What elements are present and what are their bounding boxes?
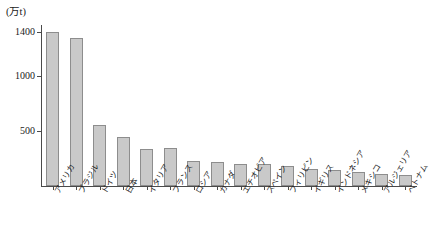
y-axis-tick-label: 1000 <box>15 71 35 81</box>
y-axis-unit-label: (万t) <box>6 3 26 18</box>
bar <box>46 32 59 186</box>
y-axis-tick-label: 500 <box>20 126 35 136</box>
y-axis-tick-mark <box>37 76 42 77</box>
y-axis-tick-label: 1400 <box>15 27 35 37</box>
y-axis-tick-mark <box>37 32 42 33</box>
bar <box>140 149 153 186</box>
y-axis-tick-mark <box>37 131 42 132</box>
bar <box>117 137 130 186</box>
